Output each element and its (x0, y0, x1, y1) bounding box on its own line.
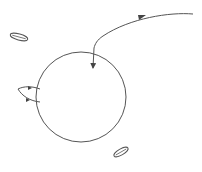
particle-upper-left (10, 32, 29, 42)
particle-lower-right (113, 145, 130, 158)
main-circle (36, 52, 126, 142)
trajectory-arrow (93, 14, 193, 68)
diagram-canvas (0, 0, 202, 172)
